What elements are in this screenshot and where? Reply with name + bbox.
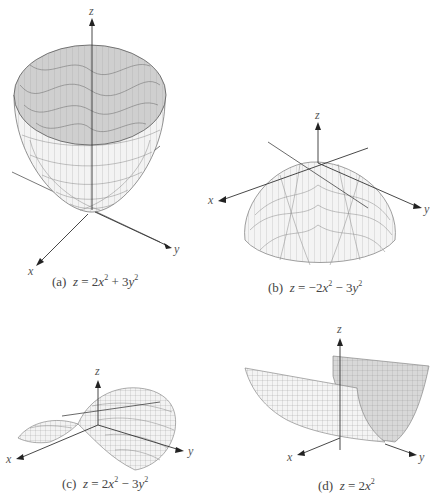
y-axis-label: y xyxy=(419,450,424,465)
x-axis-label: x xyxy=(6,452,11,467)
paraboloid-up-plot xyxy=(0,0,217,290)
paraboloid-down-plot xyxy=(200,60,434,280)
z-axis-label: z xyxy=(315,108,320,123)
y-axis-label: y xyxy=(424,202,429,217)
x-axis-label: x xyxy=(208,193,213,208)
y-axis-label: y xyxy=(188,444,193,459)
y-axis-label: y xyxy=(174,242,179,257)
z-axis-label: z xyxy=(89,4,94,19)
caption-c: (c) z = 2x2 − 3y2 xyxy=(62,476,148,492)
caption-b: (b) z = −2x2 − 3y2 xyxy=(268,280,362,296)
x-axis-label: x xyxy=(28,264,33,279)
panel-b: z x y xyxy=(200,60,434,280)
parabolic-cylinder-plot xyxy=(217,320,434,470)
panel-a: z x y (a) z = 2x2 + 3y2 xyxy=(0,0,217,290)
x-axis-label: x xyxy=(287,450,292,465)
caption-a: (a) z = 2x2 + 3y2 xyxy=(52,274,138,290)
z-axis-label: z xyxy=(95,364,100,379)
panel-c: z x y xyxy=(0,340,217,490)
panel-d: z x y xyxy=(217,320,434,470)
caption-d: (d) z = 2x2 xyxy=(318,478,375,494)
z-axis-label: z xyxy=(337,322,342,337)
saddle-plot xyxy=(0,340,217,490)
